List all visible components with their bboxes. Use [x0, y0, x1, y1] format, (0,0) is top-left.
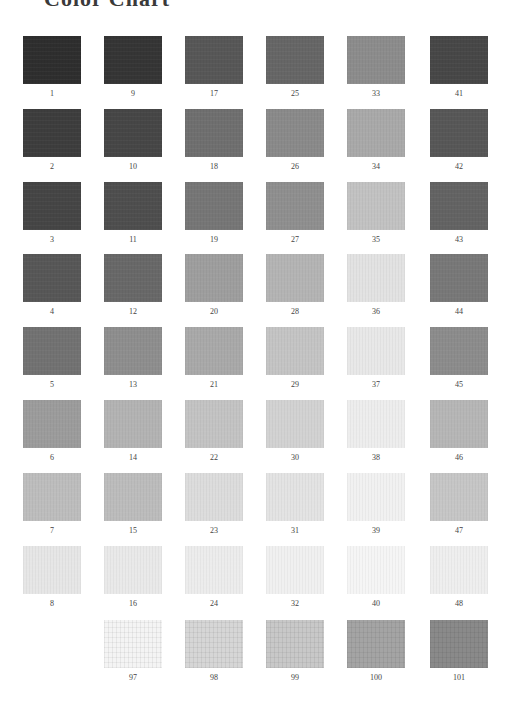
swatch-number-label: 5 [23, 380, 81, 389]
swatch-cell: 39 [347, 473, 407, 535]
color-swatch [104, 400, 162, 448]
color-swatch [430, 620, 488, 668]
swatch-number-label: 20 [185, 307, 243, 316]
color-swatch [430, 546, 488, 594]
swatch-cell: 47 [430, 473, 490, 535]
swatch-cell: 41 [430, 36, 490, 98]
color-swatch [347, 182, 405, 230]
color-swatch [347, 400, 405, 448]
swatch-number-label: 17 [185, 89, 243, 98]
color-swatch [430, 473, 488, 521]
color-swatch [185, 182, 243, 230]
color-swatch [266, 473, 324, 521]
swatch-cell: 46 [430, 400, 490, 462]
color-swatch [266, 620, 324, 668]
color-swatch [23, 400, 81, 448]
swatch-number-label: 36 [347, 307, 405, 316]
swatch-number-label: 100 [347, 673, 405, 682]
color-swatch [430, 36, 488, 84]
color-swatch [266, 182, 324, 230]
swatch-number-label: 1 [23, 89, 81, 98]
swatch-number-label: 31 [266, 526, 324, 535]
swatch-number-label: 46 [430, 453, 488, 462]
color-swatch [430, 254, 488, 302]
swatch-cell: 13 [104, 327, 164, 389]
swatch-number-label: 16 [104, 599, 162, 608]
color-swatch [104, 36, 162, 84]
swatch-cell: 97 [104, 620, 164, 682]
color-swatch [23, 473, 81, 521]
swatch-number-label: 10 [104, 162, 162, 171]
swatch-cell: 40 [347, 546, 407, 608]
swatch-number-label: 29 [266, 380, 324, 389]
swatch-number-label: 27 [266, 235, 324, 244]
swatch-cell: 7 [23, 473, 83, 535]
color-swatch [104, 254, 162, 302]
swatch-cell: 31 [266, 473, 326, 535]
swatch-number-label: 33 [347, 89, 405, 98]
color-swatch [347, 254, 405, 302]
swatch-cell: 11 [104, 182, 164, 244]
color-swatch [23, 182, 81, 230]
swatch-number-label: 14 [104, 453, 162, 462]
swatch-cell: 10 [104, 109, 164, 171]
swatch-cell: 3 [23, 182, 83, 244]
color-swatch [185, 546, 243, 594]
color-swatch [430, 400, 488, 448]
swatch-cell: 37 [347, 327, 407, 389]
swatch-number-label: 41 [430, 89, 488, 98]
swatch-cell: 9 [104, 36, 164, 98]
swatch-number-label: 2 [23, 162, 81, 171]
color-swatch [266, 254, 324, 302]
color-swatch [430, 182, 488, 230]
swatch-number-label: 37 [347, 380, 405, 389]
swatch-cell: 26 [266, 109, 326, 171]
swatch-number-label: 98 [185, 673, 243, 682]
swatch-number-label: 21 [185, 380, 243, 389]
swatch-number-label: 34 [347, 162, 405, 171]
color-swatch [266, 36, 324, 84]
swatch-cell: 28 [266, 254, 326, 316]
color-swatch [185, 473, 243, 521]
swatch-cell: 100 [347, 620, 407, 682]
swatch-cell: 48 [430, 546, 490, 608]
swatch-cell: 8 [23, 546, 83, 608]
swatch-number-label: 13 [104, 380, 162, 389]
swatch-cell: 20 [185, 254, 245, 316]
color-swatch [430, 327, 488, 375]
color-swatch [104, 473, 162, 521]
swatch-number-label: 45 [430, 380, 488, 389]
swatch-number-label: 7 [23, 526, 81, 535]
color-swatch [347, 327, 405, 375]
swatch-cell: 99 [266, 620, 326, 682]
swatch-number-label: 15 [104, 526, 162, 535]
swatch-cell: 18 [185, 109, 245, 171]
color-swatch [185, 109, 243, 157]
swatch-cell: 29 [266, 327, 326, 389]
swatch-number-label: 22 [185, 453, 243, 462]
swatch-cell: 24 [185, 546, 245, 608]
swatch-cell: 4 [23, 254, 83, 316]
color-swatch [185, 400, 243, 448]
color-swatch [104, 546, 162, 594]
color-swatch [266, 327, 324, 375]
swatch-cell: 16 [104, 546, 164, 608]
color-swatch [23, 327, 81, 375]
swatch-number-label: 25 [266, 89, 324, 98]
swatch-cell: 15 [104, 473, 164, 535]
color-swatch [347, 36, 405, 84]
swatch-number-label: 26 [266, 162, 324, 171]
color-swatch [23, 546, 81, 594]
swatch-number-label: 4 [23, 307, 81, 316]
swatch-number-label: 42 [430, 162, 488, 171]
color-swatch [185, 36, 243, 84]
swatch-cell: 44 [430, 254, 490, 316]
color-swatch [266, 546, 324, 594]
swatch-cell: 19 [185, 182, 245, 244]
swatch-cell: 5 [23, 327, 83, 389]
swatch-number-label: 30 [266, 453, 324, 462]
color-swatch [266, 109, 324, 157]
swatch-cell: 36 [347, 254, 407, 316]
swatch-cell: 43 [430, 182, 490, 244]
swatch-cell: 23 [185, 473, 245, 535]
